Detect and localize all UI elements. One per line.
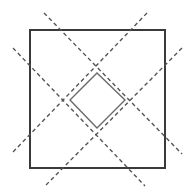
dashed-line-diag-up-2: [45, 48, 182, 186]
geometry-diagram: [0, 0, 192, 194]
dashed-line-diag-up-1: [13, 13, 147, 152]
outer-square: [30, 30, 165, 168]
dashed-diagonal-lines: [13, 13, 182, 186]
dashed-line-diag-down-1: [44, 13, 182, 154]
inner-diamond: [70, 73, 125, 128]
dashed-line-diag-down-2: [13, 48, 145, 186]
